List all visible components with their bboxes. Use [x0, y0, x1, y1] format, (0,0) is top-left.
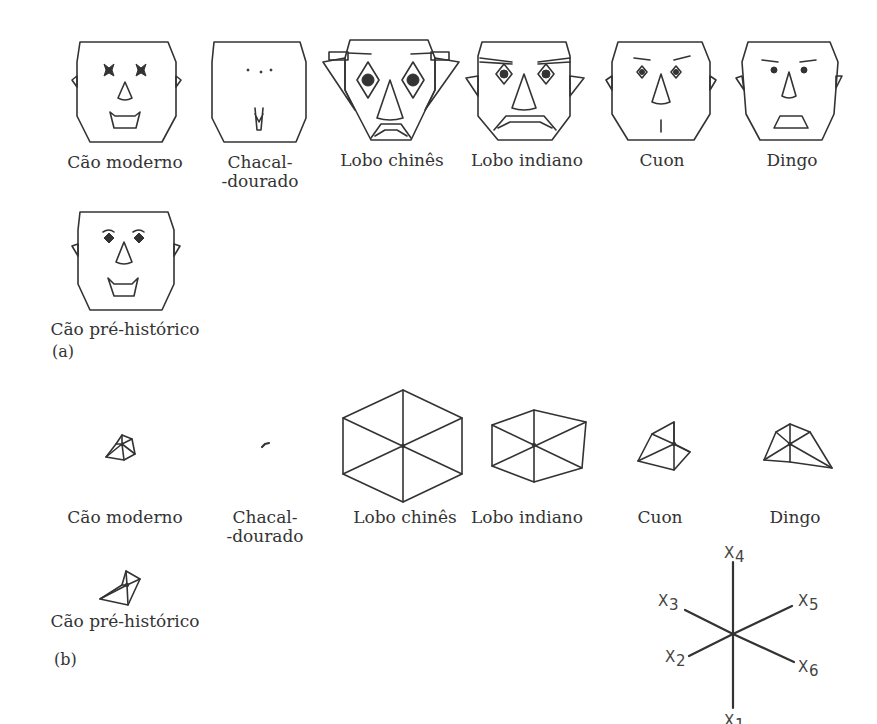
face-dingo	[736, 42, 848, 154]
face-label-line1: Chacal-	[200, 153, 320, 172]
axis-label-x5: X5	[798, 592, 819, 614]
star-label-text: Lobo chinês	[353, 507, 457, 527]
face-label-text: Lobo chinês	[340, 150, 444, 170]
face-label: Dingo	[735, 151, 849, 170]
star-label-line1: Chacal-	[215, 508, 315, 527]
star-lobo-chines	[340, 388, 470, 502]
svg-text:X: X	[798, 658, 808, 676]
svg-text:6: 6	[809, 662, 819, 680]
svg-text:X: X	[658, 592, 668, 610]
face-label: Cão moderno	[55, 153, 195, 172]
svg-text:X: X	[724, 544, 734, 562]
svg-text:X: X	[798, 592, 808, 610]
star-cao-moderno	[100, 430, 140, 466]
star-label-text: Dingo	[769, 507, 820, 527]
face-label-text: Cão moderno	[67, 152, 182, 172]
face-label-text: Lobo indiano	[471, 150, 583, 170]
star-lobo-indiano	[490, 410, 590, 484]
svg-text:5: 5	[809, 596, 819, 614]
face-label: Chacal- -dourado	[200, 153, 320, 191]
star-label: Cuon	[620, 508, 700, 527]
face-label-line2: -dourado	[200, 172, 320, 191]
svg-text:2: 2	[676, 652, 686, 670]
star-label: Chacal- -dourado	[215, 508, 315, 546]
star-label-line2: -dourado	[215, 527, 315, 546]
face-cao-pre-historico	[70, 212, 180, 320]
star-label: Cão pré-histórico	[42, 612, 208, 631]
axis-label-x1: X1	[724, 712, 745, 724]
star-dingo	[762, 422, 834, 468]
face-label-text: Dingo	[766, 150, 817, 170]
face-label: Cuon	[605, 151, 719, 170]
axis-label-x4: X4	[724, 544, 745, 566]
face-lobo-chines	[323, 40, 459, 152]
face-label: Cão pré-histórico	[42, 320, 208, 339]
face-cao-moderno	[70, 42, 180, 154]
star-label: Dingo	[755, 508, 835, 527]
face-label-text: Cão pré-histórico	[50, 319, 199, 339]
star-label-text: Cão moderno	[67, 507, 182, 527]
star-label: Cão moderno	[55, 508, 195, 527]
face-chacal-dourado	[208, 42, 310, 154]
face-lobo-indiano	[464, 42, 588, 154]
star-cao-pre-historico	[98, 569, 142, 609]
star-label: Lobo indiano	[462, 508, 592, 527]
star-label-text: Cuon	[637, 507, 682, 527]
svg-text:3: 3	[669, 596, 679, 614]
axis-label-x2: X2	[665, 648, 686, 670]
star-axis-key: X4 X3 X5 X2 X6 X1	[640, 540, 840, 724]
face-cuon	[606, 42, 718, 154]
axis-label-x6: X6	[798, 658, 819, 680]
face-label: Lobo chinês	[330, 151, 454, 170]
svg-text:X: X	[724, 712, 734, 724]
star-cuon	[636, 420, 702, 472]
panel-a-label: (a)	[52, 342, 74, 361]
panel-b-label: (b)	[54, 650, 77, 669]
svg-text:X: X	[665, 648, 675, 666]
face-label: Lobo indiano	[462, 151, 592, 170]
svg-text:4: 4	[735, 548, 745, 566]
face-label-text: Cuon	[639, 150, 684, 170]
star-label: Lobo chinês	[345, 508, 465, 527]
svg-text:1: 1	[735, 716, 745, 724]
axis-label-x3: X3	[658, 592, 679, 614]
star-label-text: Cão pré-histórico	[50, 611, 199, 631]
star-chacal-dourado	[260, 440, 272, 450]
star-label-text: Lobo indiano	[471, 507, 583, 527]
